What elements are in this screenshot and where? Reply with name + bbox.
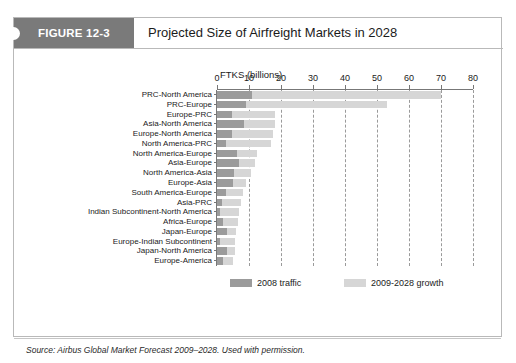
x-tick-label-50: 50 bbox=[365, 73, 389, 83]
category-label: Japan-North America bbox=[137, 246, 212, 256]
chart-area: FTKS (billions) 01020304050607080 PRC-No… bbox=[14, 49, 501, 307]
bar-segment-growth bbox=[223, 257, 233, 265]
legend-label: 2008 traffic bbox=[257, 277, 301, 289]
category-label: North America-PRC bbox=[142, 139, 212, 149]
bar-segment-traffic bbox=[217, 140, 226, 148]
category-label: Europe-Asia bbox=[168, 178, 212, 188]
bar-segment-growth bbox=[222, 199, 241, 207]
category-label: Asia-PRC bbox=[177, 198, 212, 208]
bar-row: Europe-Asia bbox=[217, 178, 473, 188]
legend-swatch bbox=[344, 279, 366, 287]
bar-segment-traffic bbox=[217, 111, 232, 119]
bar-segment-growth bbox=[227, 247, 235, 255]
category-label: North America-Europe bbox=[133, 149, 212, 159]
x-tick-label-0: 0 bbox=[205, 73, 229, 83]
category-label: Indian Subcontinent-North America bbox=[88, 207, 212, 217]
bar-segment-growth bbox=[226, 140, 271, 148]
x-tick-70 bbox=[441, 85, 442, 89]
bar-segment-traffic bbox=[217, 130, 232, 138]
bar-rows: PRC-North AmericaPRC-EuropeEurope-PRCAsi… bbox=[217, 90, 473, 266]
x-tick-20 bbox=[281, 85, 282, 89]
bar-row: North America-Asia bbox=[217, 168, 473, 178]
bar-segment-growth bbox=[244, 120, 275, 128]
figure-number-tab: FIGURE 12-3 bbox=[14, 18, 134, 48]
bar-row: Europe-PRC bbox=[217, 110, 473, 120]
bar-row: Asia-Europe bbox=[217, 158, 473, 168]
category-label: Europe-Indian Subcontinent bbox=[113, 237, 212, 247]
gridline-80 bbox=[473, 90, 474, 266]
legend-label: 2009-2028 growth bbox=[371, 277, 444, 289]
bar-segment-growth bbox=[232, 130, 273, 138]
category-label: Europe-North America bbox=[133, 129, 212, 139]
category-label: PRC-North America bbox=[142, 90, 212, 100]
x-tick-label-20: 20 bbox=[269, 73, 293, 83]
bar-row: Asia-PRC bbox=[217, 198, 473, 208]
figure-header: FIGURE 12-3 Projected Size of Airfreight… bbox=[14, 18, 503, 49]
figure-number-label: FIGURE 12-3 bbox=[14, 18, 134, 48]
bar-segment-growth bbox=[246, 101, 387, 109]
bar-row: North America-Europe bbox=[217, 149, 473, 159]
bar-row: North America-PRC bbox=[217, 139, 473, 149]
category-label: Asia-North America bbox=[143, 119, 212, 129]
x-tick-50 bbox=[377, 85, 378, 89]
bar-segment-growth bbox=[233, 179, 246, 187]
category-label: South America-Europe bbox=[132, 188, 213, 198]
bar-segment-growth bbox=[220, 238, 234, 246]
x-tick-label-10: 10 bbox=[237, 73, 261, 83]
bar-segment-growth bbox=[232, 111, 274, 119]
bar-segment-traffic bbox=[217, 120, 244, 128]
bar-segment-traffic bbox=[217, 247, 227, 255]
bar-row: South America-Europe bbox=[217, 188, 473, 198]
source-divider bbox=[14, 338, 501, 339]
x-tick-10 bbox=[249, 85, 250, 89]
bar-segment-traffic bbox=[217, 189, 226, 197]
bar-row: Europe-Indian Subcontinent bbox=[217, 237, 473, 247]
bar-segment-traffic bbox=[217, 228, 227, 236]
legend-swatch bbox=[230, 279, 252, 287]
x-tick-label-70: 70 bbox=[429, 73, 453, 83]
bar-segment-traffic bbox=[217, 150, 237, 158]
bar-segment-growth bbox=[226, 189, 243, 197]
x-tick-30 bbox=[313, 85, 314, 89]
plot-area: 01020304050607080 PRC-North AmericaPRC-E… bbox=[217, 89, 473, 266]
x-tick-0 bbox=[217, 85, 218, 89]
bar-row: Japan-Europe bbox=[217, 227, 473, 237]
bar-row: PRC-North America bbox=[217, 90, 473, 100]
bar-segment-growth bbox=[252, 91, 441, 99]
category-label: Europe-PRC bbox=[167, 110, 212, 120]
category-label: Asia-Europe bbox=[168, 158, 212, 168]
category-label: North America-Asia bbox=[143, 168, 212, 178]
bar-segment-growth bbox=[237, 150, 257, 158]
x-tick-label-80: 80 bbox=[461, 73, 485, 83]
category-label: PRC-Europe bbox=[167, 100, 212, 110]
bar-segment-growth bbox=[220, 208, 239, 216]
chart-legend: 2008 traffic2009-2028 growth bbox=[14, 277, 501, 291]
bar-row: Asia-North America bbox=[217, 119, 473, 129]
figure-root: FIGURE 12-3 Projected Size of Airfreight… bbox=[0, 0, 516, 363]
bar-segment-growth bbox=[239, 159, 255, 167]
bar-segment-traffic bbox=[217, 179, 233, 187]
bar-row: Japan-North America bbox=[217, 246, 473, 256]
x-tick-label-40: 40 bbox=[333, 73, 357, 83]
x-tick-label-60: 60 bbox=[397, 73, 421, 83]
category-label: Japan-Europe bbox=[162, 227, 212, 237]
category-label: Europe-America bbox=[154, 256, 212, 266]
x-tick-60 bbox=[409, 85, 410, 89]
bar-row: PRC-Europe bbox=[217, 100, 473, 110]
bar-segment-traffic bbox=[217, 169, 234, 177]
figure-title: Projected Size of Airfreight Markets in … bbox=[148, 18, 397, 48]
bar-segment-growth bbox=[234, 169, 250, 177]
bar-segment-traffic bbox=[217, 91, 252, 99]
bar-segment-growth bbox=[223, 218, 237, 226]
x-tick-label-30: 30 bbox=[301, 73, 325, 83]
bar-row: Europe-North America bbox=[217, 129, 473, 139]
bar-segment-traffic bbox=[217, 159, 239, 167]
x-tick-40 bbox=[345, 85, 346, 89]
x-tick-80 bbox=[473, 85, 474, 89]
bar-segment-traffic bbox=[217, 101, 246, 109]
category-label: Africa-Europe bbox=[163, 217, 212, 227]
figure-frame: FIGURE 12-3 Projected Size of Airfreight… bbox=[13, 17, 502, 337]
bar-segment-growth bbox=[227, 228, 237, 236]
bar-row: Africa-Europe bbox=[217, 217, 473, 227]
bar-row: Europe-America bbox=[217, 256, 473, 266]
